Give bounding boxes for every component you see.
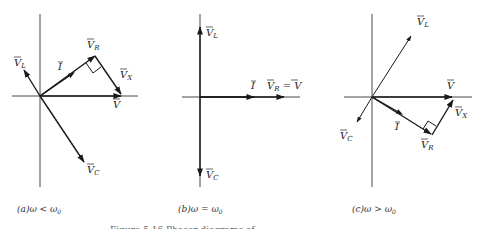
panel-a-right-angle-mark (86, 63, 101, 73)
panel-b-label-vc: VC (206, 169, 219, 182)
svg-text:VR: VR (421, 139, 434, 152)
panel-b-label-i: I (250, 80, 256, 91)
svg-text:VR: VR (87, 39, 100, 52)
panel-b-label-vl: VL (206, 27, 218, 40)
svg-text:VX: VX (120, 69, 133, 82)
panel-c-vector-vl (372, 36, 411, 97)
svg-text:VL: VL (206, 27, 218, 40)
panel-c-label-vx: VX (455, 107, 468, 120)
panel-c-label-vl: VL (417, 16, 429, 29)
svg-text:VX: VX (455, 107, 468, 120)
panel-c: VL V VX I VR VC (c)ω > ω0 (340, 14, 472, 215)
panel-a: VL I VR VX V VC (a)ω < ω0 (12, 14, 138, 215)
panel-a-vector-vl (24, 70, 40, 96)
panel-c-vector-vc (357, 97, 372, 122)
panel-a-vector-vr (40, 56, 95, 96)
panel-a-vector-vc (40, 96, 84, 162)
panel-a-label-vc: VC (87, 164, 100, 177)
panel-a-label-v: V (113, 99, 122, 110)
panel-c-caption: (c)ω > ω0 (352, 204, 396, 215)
svg-text:I: I (394, 121, 400, 132)
svg-text:V: V (447, 80, 456, 91)
panel-c-label-vc: VC (340, 130, 353, 143)
panel-a-label-i: I (57, 61, 63, 72)
svg-text:VR = V: VR = V (267, 80, 303, 93)
figure-caption-partial: Figure 5.16 Phasor diagrams of ... (110, 225, 266, 229)
svg-text:VL: VL (417, 16, 429, 29)
svg-text:I: I (250, 80, 256, 91)
panel-c-vector-vx (432, 100, 453, 135)
panel-a-label-vx: VX (120, 69, 133, 82)
panel-c-vector-vr (372, 97, 431, 134)
svg-text:VC: VC (206, 169, 219, 182)
svg-text:I: I (57, 61, 63, 72)
panel-b: VL I VR = V VC (b)ω = ω0 (178, 14, 303, 215)
svg-text:VC: VC (87, 164, 100, 177)
panel-a-label-vr: VR (87, 39, 100, 52)
panel-b-label-vr-eq-v: VR = V (267, 80, 303, 93)
svg-text:V: V (113, 99, 122, 110)
panel-b-caption: (b)ω = ω0 (178, 204, 223, 215)
panel-a-caption: (a)ω < ω0 (17, 204, 61, 215)
phasor-diagram-figure: VL I VR VX V VC (a)ω < ω0 (0, 0, 481, 229)
panel-a-label-vl: VL (14, 57, 26, 70)
svg-text:VL: VL (14, 57, 26, 70)
panel-a-vector-vx (95, 56, 121, 94)
panel-c-label-vr: VR (421, 139, 434, 152)
panel-c-label-i: I (394, 121, 400, 132)
panel-c-label-v: V (447, 80, 456, 91)
panel-c-right-angle-mark (423, 121, 436, 129)
svg-text:VC: VC (340, 130, 353, 143)
